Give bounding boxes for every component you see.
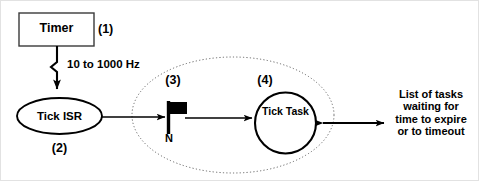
tick-isr-label: Tick ISR [17,110,102,123]
task-list-note-line-3: time to expire [387,113,475,125]
timer-frequency-label: 10 to 1000 Hz [67,58,140,71]
tick-task-label-line2: Task [286,105,309,117]
timer-reference-label: (1) [98,22,113,36]
tick-task-label: Tick Task [255,106,316,118]
timer-to-tick-isr-connector [51,46,57,89]
flag-banner [170,102,187,114]
timer-label: Timer [19,21,94,35]
task-list-note-line-1: List of tasks [387,88,475,100]
semaphore-flag-reference-label: (3) [153,73,193,87]
task-list-note-line-2: waiting for [387,100,475,112]
diagram-canvas: Timer (1) 10 to 1000 Hz Tick ISR (2) (3)… [0,0,479,181]
tick-task-reference-label: (4) [245,73,285,87]
tick-task-circle [255,93,316,154]
task-list-note: List of tasks waiting for time to expire… [387,88,475,137]
semaphore-flag-label: N [159,132,179,144]
task-list-note-line-4: or to timeout [387,125,475,137]
tick-isr-reference-label: (2) [17,141,102,155]
tick-task-label-line1: Tick [262,105,283,117]
